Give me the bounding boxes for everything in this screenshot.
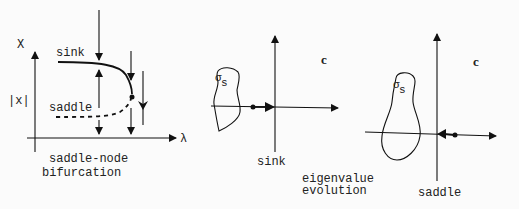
sink-plane-panel: c σ s sink [211,36,338,169]
saddle-plane-panel: c σ s saddle [365,34,496,200]
sigma-subscript: s [399,84,406,96]
sink-label: sink [56,46,85,60]
lambda-label: λ [180,132,187,146]
saddle-label: saddle [49,101,92,115]
bifurcation-point [130,95,135,100]
abs-x-label: |x| [8,94,30,108]
sink-branch [58,62,132,94]
sigma-subscript: s [221,77,228,89]
eigenvalue-caption-line2: evolution [302,184,367,198]
sink-caption: sink [257,155,286,169]
eigenvalue-arrowhead [265,102,275,112]
eigenvalue-arrowhead [437,129,446,139]
diagram-canvas: X |x| λ sink saddle saddle-node bifurcat… [0,0,519,209]
complex-plane-label: c [321,52,327,67]
caption-line2: bifurcation [42,166,121,180]
saddle-caption: saddle [418,186,461,200]
bifurcation-panel: X |x| λ sink saddle saddle-node bifurcat… [8,10,187,180]
y-axis-label: X [17,38,24,52]
real-axis [365,132,496,136]
caption-line1: saddle-node [49,152,128,166]
complex-plane-label: c [473,54,479,69]
